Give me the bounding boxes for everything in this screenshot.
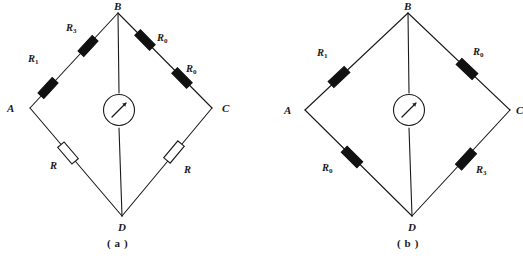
res-sub: 3	[483, 169, 487, 177]
node-label-a-C: C	[222, 103, 229, 114]
node-label-a-D: D	[118, 222, 126, 233]
resistor-b-r1	[328, 66, 350, 87]
node-label-b-C: C	[516, 105, 523, 116]
resistor-b-r0-bot	[341, 146, 363, 167]
wire-b-to-meter	[118, 13, 119, 93]
resistor-label-a-r3: R3	[66, 23, 77, 34]
resistor-label-a-r-right: R	[184, 165, 191, 176]
resistor-a-r1	[38, 78, 58, 99]
res-sub: 0	[193, 68, 197, 76]
res-letter: R	[322, 162, 329, 173]
wire-meter-to-d	[409, 128, 412, 216]
res-sub: 3	[73, 27, 77, 35]
res-letter: R	[184, 164, 191, 175]
panel-a-caption: ( a )	[107, 238, 128, 249]
wire-d-to-c	[122, 108, 212, 216]
res-letter: R	[473, 46, 480, 57]
res-sub: 0	[329, 167, 333, 175]
wire-b-to-meter	[408, 13, 409, 93]
res-letter: R	[317, 47, 324, 58]
resistor-label-b-r1: R1	[317, 48, 328, 59]
panel-b: A B C D R1 R0 R0 R3 ( b )	[260, 0, 521, 261]
res-sub: 1	[324, 52, 328, 60]
resistor-b-r3	[455, 148, 476, 170]
res-sub: 1	[35, 58, 39, 66]
galvanometer-b	[394, 95, 425, 126]
panel-b-drawing	[260, 0, 521, 261]
panel-a: A B C D R1 R3 R0 R0 R R ( a )	[0, 0, 261, 261]
resistor-a-r0-top	[135, 30, 155, 51]
node-label-b-B: B	[404, 1, 411, 12]
resistor-label-a-r0-low: R0	[186, 64, 197, 75]
resistor-a-r-right	[164, 141, 185, 163]
res-letter: R	[66, 22, 73, 33]
node-label-b-A: A	[284, 105, 291, 116]
resistor-a-r-left	[58, 142, 79, 164]
resistor-a-r3	[78, 36, 98, 57]
resistor-label-b-r0-bot: R0	[322, 163, 333, 174]
res-letter: R	[157, 32, 164, 43]
panel-a-drawing	[0, 0, 261, 261]
resistor-label-b-r0-top: R0	[473, 47, 484, 58]
wire-b-to-c	[118, 13, 212, 108]
resistor-b-r0-top	[456, 58, 478, 79]
node-label-a-B: B	[114, 1, 121, 12]
node-label-a-A: A	[7, 103, 14, 114]
res-letter: R	[50, 160, 57, 171]
res-sub: 0	[164, 37, 168, 45]
res-letter: R	[476, 164, 483, 175]
wire-a-to-b	[305, 13, 408, 110]
node-label-b-D: D	[408, 222, 416, 233]
resistor-label-a-r1: R1	[28, 54, 39, 65]
wire-a-to-d	[30, 108, 122, 216]
resistor-label-b-r3: R3	[476, 165, 487, 176]
galvanometer-a	[104, 95, 135, 126]
wire-meter-to-d	[119, 128, 122, 216]
resistor-label-a-r-left: R	[50, 161, 57, 172]
res-sub: 0	[480, 51, 484, 59]
panel-b-caption: ( b )	[397, 238, 419, 249]
res-letter: R	[28, 53, 35, 64]
resistor-label-a-r0-top: R0	[157, 33, 168, 44]
res-letter: R	[186, 63, 193, 74]
